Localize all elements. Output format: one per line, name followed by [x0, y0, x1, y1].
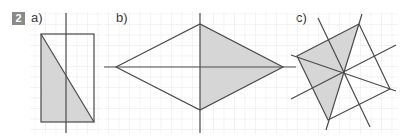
geometry-figures — [0, 0, 406, 136]
